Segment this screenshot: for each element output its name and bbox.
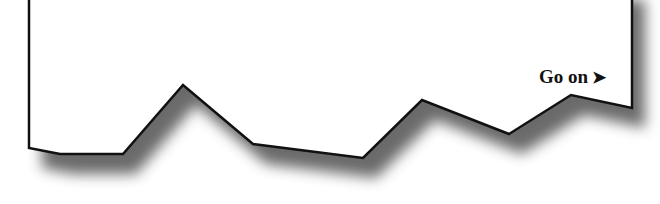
arrow-right-icon: ➤ bbox=[592, 67, 606, 88]
go-on-label: Go on bbox=[539, 66, 588, 87]
torn-paper-panel: Go on➤ bbox=[0, 0, 660, 204]
torn-paper-shape bbox=[0, 0, 660, 204]
go-on-link[interactable]: Go on➤ bbox=[539, 66, 606, 88]
